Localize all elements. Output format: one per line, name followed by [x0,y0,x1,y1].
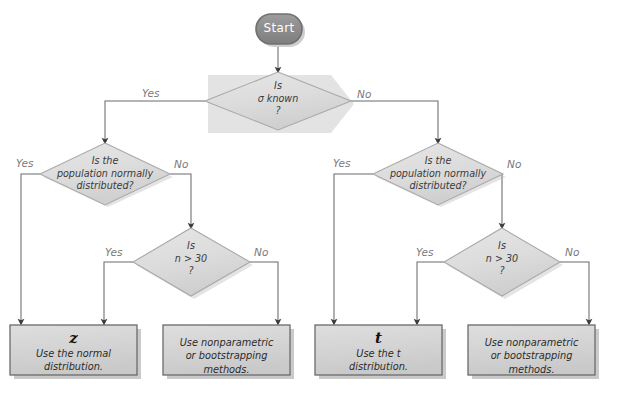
flowchart-canvas: Start Is σ known ? Is the population nor… [0,0,624,401]
decision-sigma-known[interactable] [205,72,351,130]
edge-sigma-yes [105,101,205,141]
terminal-nonparametric-left[interactable] [163,325,290,375]
terminal-nonparametric-right[interactable] [468,325,595,375]
decision-population-normal-left[interactable] [40,143,170,205]
edge-pop-right-yes [334,174,373,322]
edge-n-left-yes [104,262,133,322]
edge-n-left-no [250,262,278,322]
edge-n-right-no [560,262,589,322]
terminal-use-t[interactable] [315,325,442,375]
edge-pop-left-yes [21,174,40,322]
decision-population-normal-right[interactable] [373,143,503,205]
edge-sigma-no [351,101,438,141]
start-node[interactable] [256,14,302,44]
terminal-use-z[interactable] [10,325,137,375]
decision-n-30-left[interactable] [133,228,250,296]
edge-n-right-yes [417,262,444,322]
edge-pop-left-no [170,174,191,226]
decision-n-30-right[interactable] [444,228,560,296]
